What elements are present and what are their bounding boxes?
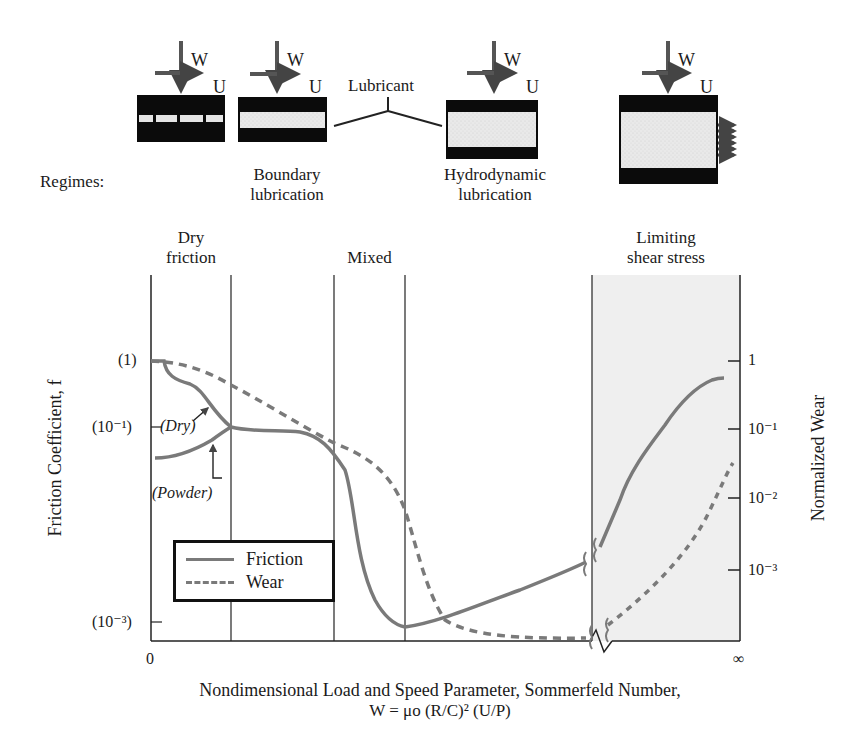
velocity-label-3: U	[526, 77, 539, 97]
powder-annotation: (Powder)	[152, 484, 212, 502]
y-axis-right-title: Normalized Wear	[808, 378, 828, 538]
dry-friction-region-label: Dry friction	[151, 228, 231, 268]
chart-legend: Friction Wear	[173, 540, 335, 602]
dry-annotation: (Dry)	[160, 417, 196, 435]
lubricant-pointer	[334, 97, 442, 126]
limiting-region-shade	[592, 275, 740, 641]
right-tick-0-01: 10⁻²	[748, 488, 777, 507]
right-tick-0-001: 10⁻³	[748, 560, 777, 579]
x-tick-infinity: ∞	[733, 650, 744, 668]
left-tick-0-1: (10⁻¹)	[92, 417, 132, 436]
limiting-shear-region-label: Limiting shear stress	[592, 228, 740, 268]
right-tick-0-1: 10⁻¹	[748, 419, 777, 438]
limiting-shear-schematic	[619, 41, 734, 184]
load-label-3: W	[504, 50, 521, 70]
y-axis-left-title: Friction Coefficient, f	[45, 378, 65, 538]
load-label-4: W	[678, 50, 695, 70]
dry-friction-schematic	[137, 41, 225, 142]
velocity-label-2: U	[309, 77, 322, 97]
regime-schematics	[0, 0, 854, 755]
x-axis-title: Nondimensional Load and Speed Parameter,…	[140, 680, 740, 700]
lubricant-label: Lubricant	[348, 76, 414, 96]
x-tick-zero: 0	[146, 650, 154, 668]
legend-item-wear: Wear	[186, 572, 284, 592]
hydrodynamic-lubrication-label: Hydrodynamic lubrication	[420, 165, 570, 205]
mixed-region-label: Mixed	[334, 248, 405, 268]
dashed-line-icon	[186, 581, 234, 584]
legend-item-friction: Friction	[186, 549, 303, 569]
boundary-lubrication-label: Boundary lubrication	[232, 165, 342, 205]
load-label-2: W	[287, 50, 304, 70]
regimes-label: Regimes:	[40, 172, 104, 192]
solid-line-icon	[186, 558, 234, 561]
hydrodynamic-schematic	[446, 41, 538, 159]
load-label-1: W	[191, 50, 208, 70]
left-tick-0-001: (10⁻³)	[92, 612, 132, 631]
velocity-label-1: U	[213, 77, 226, 97]
left-tick-1: (1)	[118, 351, 137, 369]
x-axis-formula: W = μo (R/C)² (U/P)	[140, 701, 740, 721]
velocity-label-4: U	[700, 77, 713, 97]
right-tick-1: 1	[748, 351, 756, 369]
